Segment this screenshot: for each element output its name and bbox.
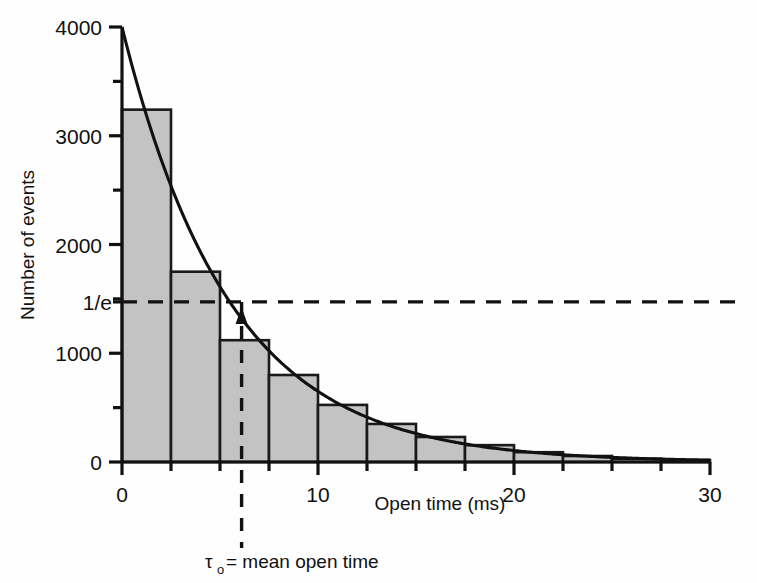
tau-subscript: o <box>217 562 224 577</box>
histogram-bar <box>220 340 269 462</box>
x-axis-ticks <box>122 462 710 475</box>
x-axis-tick-label: 30 <box>698 483 721 506</box>
tau-caption-group: τ o = mean open time <box>205 551 379 577</box>
y-axis-title: Number of events <box>17 170 38 320</box>
y-axis-ticks <box>109 27 122 462</box>
tau-symbol: τ <box>205 551 213 572</box>
y-axis-tick-label: 4000 <box>55 16 102 39</box>
y-axis-tick-labels: 01000200030004000 <box>55 16 102 474</box>
y-axis-tick-label: 3000 <box>55 125 102 148</box>
x-axis-tick-label: 20 <box>502 483 525 506</box>
y-axis-tick-label: 0 <box>90 451 102 474</box>
y-axis-tick-label: 2000 <box>55 234 102 257</box>
histogram-bar <box>367 424 416 462</box>
x-axis-title: Open time (ms) <box>375 493 506 514</box>
tau-caption-text: = mean open time <box>226 551 379 572</box>
histogram-chart: 01000200030004000 0102030 1/e Number of … <box>0 0 757 583</box>
x-axis-tick-label: 10 <box>306 483 329 506</box>
y-axis-tick-label: 1000 <box>55 342 102 365</box>
x-axis-tick-label: 0 <box>116 483 128 506</box>
one-over-e-tick-label: 1/e <box>83 291 112 314</box>
bars-group <box>122 110 710 462</box>
figure-container: 01000200030004000 0102030 1/e Number of … <box>0 0 757 583</box>
